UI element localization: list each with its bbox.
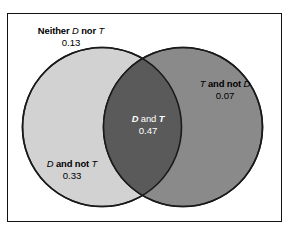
d-not-t-set-a: D: [47, 158, 54, 169]
t-not-d-set-a: T: [200, 78, 206, 89]
venn-diagram-figure: Neither D nor T 0.13 T and not D 0.07 D …: [0, 0, 290, 229]
t-not-d-value: 0.07: [182, 90, 268, 101]
d-not-t-joiner: and not: [56, 158, 89, 169]
d-and-t-set-b: T: [159, 113, 165, 124]
region-label-t-and-not-d: T and not D 0.07: [182, 78, 268, 101]
d-not-t-set-b: T: [92, 158, 98, 169]
d-and-t-joiner: and: [141, 113, 156, 124]
neither-value: 0.13: [16, 37, 126, 48]
neither-set-a: D: [72, 25, 79, 36]
neither-prefix: Neither: [38, 25, 70, 36]
t-not-d-joiner: and not: [208, 78, 241, 89]
region-label-d-and-not-t: D and not T 0.33: [24, 158, 120, 181]
neither-set-b: T: [99, 25, 105, 36]
d-not-t-value: 0.33: [24, 170, 120, 181]
d-and-t-value: 0.47: [112, 125, 184, 136]
region-label-d-and-t: D and T 0.47: [112, 113, 184, 136]
neither-joiner: nor: [81, 25, 96, 36]
d-and-t-set-a: D: [132, 113, 139, 124]
region-label-neither-d-nor-t: Neither D nor T 0.13: [16, 25, 126, 48]
t-not-d-set-b: D: [244, 78, 251, 89]
